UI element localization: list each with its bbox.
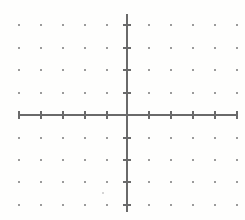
grid-dot [170, 137, 172, 139]
grid-dot [214, 181, 216, 183]
grid-dot [192, 181, 194, 183]
grid-dot [214, 137, 216, 139]
grid-dot [170, 181, 172, 183]
grid-dot [62, 137, 64, 139]
grid-dot [170, 204, 172, 206]
grid-dot [236, 137, 238, 139]
coordinate-plane-svg [0, 0, 245, 220]
grid-dot [84, 181, 86, 183]
grid-dot [18, 181, 20, 183]
grid-dot [18, 159, 20, 161]
figure-background [0, 0, 245, 220]
grid-dot [148, 92, 150, 94]
grid-dot [62, 204, 64, 206]
grid-dot [148, 47, 150, 49]
grid-dot [40, 159, 42, 161]
grid-dot [40, 181, 42, 183]
grid-dot [192, 92, 194, 94]
stray-mark [102, 192, 103, 193]
grid-dot [18, 92, 20, 94]
grid-dot [106, 92, 108, 94]
grid-dot [84, 69, 86, 71]
grid-dot [40, 92, 42, 94]
grid-dot [40, 24, 42, 26]
grid-dot [236, 92, 238, 94]
grid-dot [40, 137, 42, 139]
grid-dot [148, 159, 150, 161]
grid-dot [192, 24, 194, 26]
grid-dot [106, 69, 108, 71]
grid-dot [170, 24, 172, 26]
grid-dot [236, 204, 238, 206]
grid-dot [62, 181, 64, 183]
grid-dot [40, 69, 42, 71]
grid-dot [106, 181, 108, 183]
grid-dot [84, 47, 86, 49]
grid-dot [148, 24, 150, 26]
grid-dot [192, 47, 194, 49]
grid-dot [62, 159, 64, 161]
grid-dot [214, 92, 216, 94]
stray-marks [102, 192, 103, 193]
grid-dot [214, 204, 216, 206]
grid-dot [84, 92, 86, 94]
grid-dot [236, 24, 238, 26]
grid-dot [236, 69, 238, 71]
grid-dot [148, 69, 150, 71]
grid-dot [18, 69, 20, 71]
grid-dot [214, 24, 216, 26]
grid-dot [62, 69, 64, 71]
grid-dot [106, 159, 108, 161]
grid-dot [148, 204, 150, 206]
grid-dot [170, 47, 172, 49]
grid-dot [40, 204, 42, 206]
grid-dot [18, 47, 20, 49]
grid-dot [192, 159, 194, 161]
grid-dot [62, 47, 64, 49]
grid-dot [192, 69, 194, 71]
grid-dot [106, 47, 108, 49]
grid-dot [106, 204, 108, 206]
grid-dot [62, 92, 64, 94]
grid-dot [62, 24, 64, 26]
grid-dot [148, 181, 150, 183]
grid-dot [192, 204, 194, 206]
grid-dot [18, 137, 20, 139]
grid-dot [84, 24, 86, 26]
grid-dot [214, 47, 216, 49]
grid-dot [236, 181, 238, 183]
grid-dot [84, 159, 86, 161]
grid-dot [18, 204, 20, 206]
grid-dot [170, 69, 172, 71]
coordinate-plane-figure [0, 0, 245, 220]
grid-dot [236, 47, 238, 49]
grid-dot [236, 159, 238, 161]
grid-dot [84, 137, 86, 139]
grid-dot [18, 24, 20, 26]
grid-dot [192, 137, 194, 139]
grid-dot [170, 92, 172, 94]
grid-dot [214, 159, 216, 161]
grid-dot [40, 47, 42, 49]
grid-dot [148, 137, 150, 139]
grid-dot [214, 69, 216, 71]
grid-dot [84, 204, 86, 206]
grid-dot [170, 159, 172, 161]
grid-dot [106, 137, 108, 139]
grid-dot [106, 24, 108, 26]
